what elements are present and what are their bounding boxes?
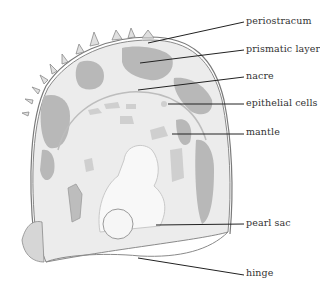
label-pearl-sac: pearl sac [246,217,291,228]
label-hinge: hinge [246,267,273,278]
label-nacre: nacre [246,70,274,81]
hinge-ribs [22,222,44,262]
label-epithelial-cells: epithelial cells [246,97,318,108]
shell-diagram: periostracumprismatic layernacreepitheli… [0,0,320,296]
leader-line-hinge [138,258,244,275]
label-mantle: mantle [246,126,280,137]
label-periostracum: periostracum [246,15,312,26]
pearl [103,209,133,239]
label-prismatic-layer: prismatic layer [246,43,320,54]
leader-line-periostracum [148,22,244,43]
